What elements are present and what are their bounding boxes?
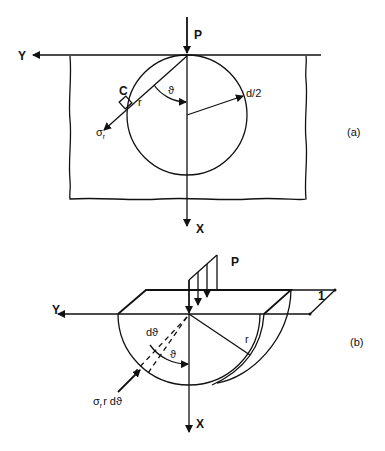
diameter-label: d/2 [246,87,261,99]
figure-a: P Y X C r ϑ d/2 σr (a) [18,17,360,236]
thickness-label: 1 [318,289,325,303]
inner-arc [212,314,264,385]
x-label-b: X [196,417,204,431]
slab-top [118,290,291,314]
angle-label-b: ϑ [170,348,176,360]
r-label-a: r [138,96,142,108]
stress-label-a: σr [96,126,106,140]
dtheta-label: dϑ [146,326,158,338]
radius-b [189,314,250,355]
panel-label-a: (a) [347,126,360,138]
half-plane-body [69,56,306,200]
force-label: σrr dϑ [93,395,122,409]
angle-label-a: ϑ [168,84,174,96]
load-label-a: P [194,28,202,42]
y-label-a: Y [18,49,26,63]
x-label-a: X [196,222,204,236]
panel-label-b: (b) [350,336,363,348]
point-label-c: C [119,84,128,98]
r-label-b: r [245,333,249,345]
figure-b: P Y X 1 r dϑ ϑ σrr dϑ (b) [52,255,363,432]
distributed-load [189,255,217,313]
y-label-b: Y [52,303,60,317]
radius-line [187,96,243,115]
radial-line [104,56,187,130]
diagram-canvas: P Y X C r ϑ d/2 σr (a) [0,0,385,451]
back-semicircle [217,290,291,383]
load-label-b: P [231,255,239,269]
force-arrow [118,370,140,392]
